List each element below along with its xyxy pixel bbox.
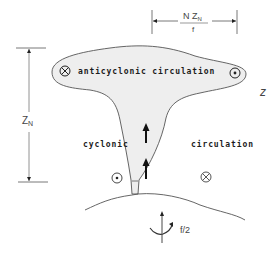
width-dimension: N ZN f	[152, 10, 237, 34]
diagram-canvas: ZN N ZN f z anticyclonic circulation cyc…	[0, 0, 275, 256]
ground-line	[85, 194, 245, 220]
height-dimension: ZN	[16, 48, 48, 182]
z-axis-label: z	[259, 85, 266, 99]
anticyclonic-label: anticyclonic circulation	[78, 66, 215, 76]
rotation-icon	[150, 211, 173, 243]
cyclonic-label: cyclonic	[83, 139, 129, 149]
rotation-label: f/2	[180, 225, 190, 235]
height-label: ZN	[22, 115, 33, 127]
into-page-icon	[201, 172, 211, 182]
width-label-numerator: N ZN	[183, 11, 202, 22]
circulation-label: circulation	[191, 139, 254, 149]
width-label-denominator: f	[192, 25, 195, 34]
out-of-page-icon	[112, 173, 122, 183]
